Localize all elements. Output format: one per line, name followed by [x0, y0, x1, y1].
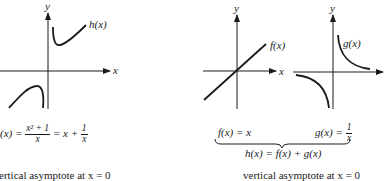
h-formula-mid: = x + — [53, 127, 78, 139]
sum-formula: h(x) = f(x) + g(x) — [245, 148, 322, 159]
right-plot — [293, 15, 383, 109]
f-line — [204, 44, 266, 100]
right-y-label: y — [330, 3, 335, 14]
f-curve-label: f(x) — [270, 40, 285, 51]
f-formula: f(x) = x — [218, 127, 251, 138]
g-formula: g(x) = 1 x — [315, 123, 352, 144]
middle-y-label: y — [234, 3, 239, 14]
h-curve-upper — [53, 25, 86, 45]
left-x-label: x — [113, 65, 118, 76]
h-curve-lower — [9, 86, 43, 108]
g-curve-lower — [296, 75, 329, 108]
h-formula-fraction-2: 1 x — [81, 124, 88, 145]
h-formula-fraction-1: x² + 1 x — [25, 124, 50, 145]
h-formula-lhs: (x) = — [0, 127, 22, 139]
left-y-label: y — [45, 1, 50, 12]
g-formula-fraction: 1 x — [346, 123, 353, 144]
h-definition-formula: (x) = x² + 1 x = x + 1 x — [0, 124, 88, 145]
g-formula-lhs: g(x) = — [315, 126, 343, 138]
middle-plot — [203, 15, 276, 109]
middle-x-label: x — [279, 66, 284, 77]
g-curve-label: g(x) — [343, 38, 361, 49]
left-caption: ertical asymptote at x = 0 — [0, 170, 111, 181]
h-curve-label: h(x) — [89, 19, 107, 30]
figure-canvas — [0, 0, 384, 181]
right-caption: vertical asymptote at x = 0 — [243, 170, 360, 181]
